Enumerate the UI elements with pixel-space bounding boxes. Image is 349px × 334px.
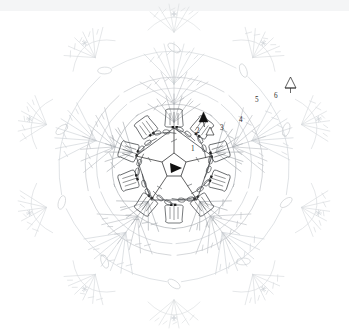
round-label-4: 4 — [239, 116, 243, 124]
start-marker-filled-triangle — [199, 112, 208, 127]
round-label-5: 5 — [255, 96, 259, 104]
end-marker-outline-triangle — [285, 77, 296, 93]
round-label-2: 2 — [196, 127, 200, 135]
crochet-chart-svg: 1 2 3 4 5 6 — [0, 0, 349, 334]
round-label-6: 6 — [274, 92, 278, 100]
center-arrow-marker — [170, 163, 182, 173]
join-marker-outline-triangle — [206, 127, 214, 135]
round-1-core — [136, 128, 212, 200]
diagram-canvas: 1 2 3 4 5 6 — [0, 0, 349, 334]
round-label-3: 3 — [220, 124, 224, 132]
round-label-1: 1 — [191, 145, 195, 153]
